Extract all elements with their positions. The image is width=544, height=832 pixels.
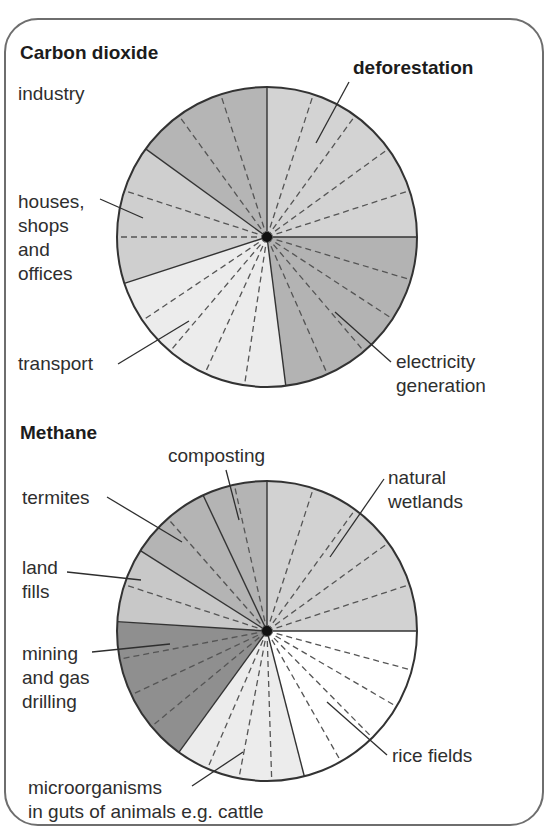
label-electricity: electricity generation <box>396 350 486 398</box>
label-rice-fields: rice fields <box>392 744 472 768</box>
label-deforestation: deforestation <box>353 56 473 80</box>
label-industry: industry <box>18 82 85 106</box>
co2-title: Carbon dioxide <box>20 42 158 64</box>
methane-pie <box>117 481 417 781</box>
label-microorganisms: microorganisms in guts of animals e.g. c… <box>28 776 264 824</box>
co2-pie <box>117 87 417 387</box>
pie-slice <box>267 237 417 386</box>
label-mining: mining and gas drilling <box>22 642 90 714</box>
pie-center-dot <box>262 232 272 242</box>
label-land-fills: land fills <box>22 556 58 604</box>
methane-title: Methane <box>20 422 97 444</box>
label-transport: transport <box>18 352 93 376</box>
label-natural-wetlands: natural wetlands <box>388 466 463 514</box>
pie-center-dot <box>262 626 272 636</box>
pie-slice <box>267 87 417 237</box>
label-termites: termites <box>22 486 90 510</box>
label-composting: composting <box>168 444 265 468</box>
label-houses: houses, shops and offices <box>18 190 85 286</box>
